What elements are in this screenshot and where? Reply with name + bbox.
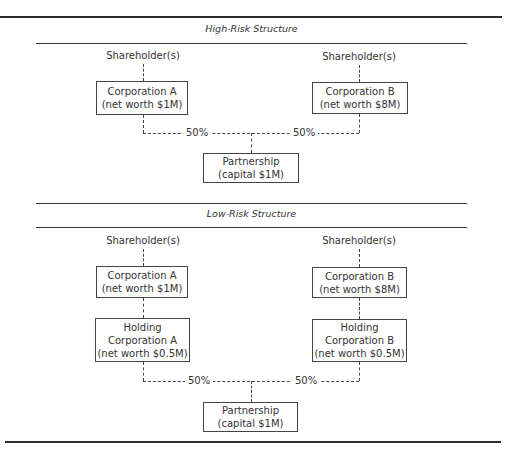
share-label-b-low: 50%	[292, 375, 320, 387]
connector-holding-a-down	[143, 362, 144, 381]
corporation-a-name: Corporation A	[107, 85, 176, 98]
corporation-a-value: (net worth $1M)	[102, 98, 183, 111]
section-title-high-risk: High-Risk Structure	[36, 23, 467, 34]
low-risk-top-rule	[36, 203, 467, 204]
partnership-name: Partnership	[222, 404, 279, 417]
corporation-b-box: Corporation B (net worth $8M)	[312, 267, 407, 298]
corporation-a-name: Corporation A	[107, 269, 176, 282]
shareholder-label-b: Shareholder(s)	[309, 235, 409, 246]
corporation-b-value: (net worth $8M)	[320, 98, 401, 111]
holding-b-value: (net worth $0.5M)	[314, 347, 404, 360]
connector-corp-a-holding	[143, 298, 144, 318]
partnership-value: (capital $1M)	[218, 417, 284, 430]
section-title-low-risk: Low-Risk Structure	[36, 208, 467, 219]
partnership-box-high: Partnership (capital $1M)	[203, 153, 299, 183]
holding-b-line1: Holding	[340, 321, 378, 334]
corporation-a-box: Corporation A (net worth $1M)	[96, 81, 188, 115]
connector-shareholder-b	[359, 65, 360, 82]
connector-corp-a-down	[143, 115, 144, 133]
connector-holding-b-down	[359, 362, 360, 381]
low-risk-title-rule	[36, 227, 467, 228]
connector-shareholder-a	[143, 64, 144, 81]
holding-corporation-a-box: Holding Corporation A (net worth $0.5M)	[95, 318, 190, 362]
high-risk-title-rule	[36, 43, 467, 44]
share-label-a-high: 50%	[183, 127, 211, 139]
shareholder-label-b: Shareholder(s)	[309, 51, 409, 62]
corporation-a-box: Corporation A (net worth $1M)	[96, 266, 188, 298]
shareholder-label-a: Shareholder(s)	[93, 235, 193, 246]
corporation-b-name: Corporation B	[325, 85, 394, 98]
shareholder-label-a: Shareholder(s)	[93, 50, 193, 61]
holding-a-line1: Holding	[123, 321, 161, 334]
connector-corp-b-down	[359, 114, 360, 133]
share-label-b-high: 50%	[290, 127, 318, 139]
holding-a-line2: Corporation A	[108, 334, 177, 347]
holding-b-line2: Corporation B	[325, 334, 394, 347]
holding-a-value: (net worth $0.5M)	[97, 347, 187, 360]
bottom-rule	[5, 441, 501, 443]
share-label-a-low: 50%	[185, 375, 213, 387]
connector-corp-b-holding	[359, 298, 360, 319]
connector-shareholder-b	[359, 249, 360, 267]
holding-corporation-b-box: Holding Corporation B (net worth $0.5M)	[312, 319, 407, 362]
connector-partnership-low	[251, 381, 252, 402]
partnership-name: Partnership	[222, 155, 279, 168]
corporation-a-value: (net worth $1M)	[102, 282, 183, 295]
top-rule	[0, 16, 502, 18]
corporation-b-name: Corporation B	[325, 270, 394, 283]
connector-partnership-high	[251, 133, 252, 153]
corporation-b-value: (net worth $8M)	[319, 283, 400, 296]
connector-shareholder-a	[143, 249, 144, 266]
corporation-b-box: Corporation B (net worth $8M)	[312, 82, 408, 114]
partnership-box-low: Partnership (capital $1M)	[203, 402, 298, 432]
partnership-value: (capital $1M)	[218, 168, 284, 181]
